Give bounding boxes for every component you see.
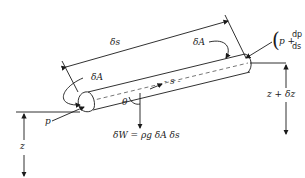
- p-outlet-denominator: ds: [292, 43, 301, 51]
- delta-a-lower-label: δA: [91, 73, 103, 82]
- tube-top-edge: [88, 54, 245, 92]
- s-axis-label: - s -: [164, 77, 180, 86]
- z-label: z: [20, 142, 25, 151]
- weight-label: δW = ρg δA δs: [113, 131, 180, 140]
- diagram-drawing: [0, 0, 305, 178]
- p-outlet-numerator: dp: [292, 31, 302, 39]
- delta-s-label: δs: [110, 38, 120, 47]
- theta-arc: [129, 97, 140, 104]
- delta-a-leader-upper: [209, 41, 228, 58]
- p-inlet-arrow: [52, 107, 84, 121]
- p-inlet-label: p: [45, 117, 51, 126]
- p-outlet-arrow: [246, 42, 272, 58]
- theta-label: θ: [122, 98, 127, 107]
- delta-a-upper-label: δA: [193, 38, 205, 47]
- s-direction-arrow: [150, 84, 162, 89]
- z-plus-dz-label: z + δz: [267, 90, 295, 99]
- streamtube-diagram: δs δA δA - s - θ p z z + δz δW = ρg δA δ…: [0, 0, 305, 178]
